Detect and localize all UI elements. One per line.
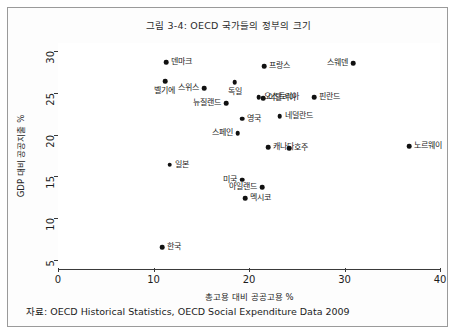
scatter-point	[287, 146, 292, 151]
source-note: 자료: OECD Historical Statistics, OECD Soc…	[26, 304, 350, 318]
scatter-point	[163, 79, 168, 84]
x-axis-tick-label: 10	[147, 275, 160, 285]
x-axis-tick	[58, 268, 59, 272]
figure-container: 그림 3-4: OECD 국가들의 정부의 크기 GDP 대비 공공지출 % 5…	[0, 0, 457, 336]
scatter-point	[202, 86, 207, 91]
y-axis-title: GDP 대비 공공지출 %	[14, 43, 27, 268]
scatter-point	[235, 131, 240, 136]
scatter-point-label: 독일	[228, 88, 242, 96]
y-axis-tick-label: 5	[46, 260, 56, 266]
scatter-point	[351, 61, 356, 66]
y-axis-tick-label: 10	[46, 218, 56, 231]
scatter-point-label: 호주	[294, 144, 308, 152]
scatter-point-label: 네덜란드	[285, 112, 313, 120]
scatter-point	[224, 101, 229, 106]
y-axis-title-text: GDP 대비 공공지출 %	[15, 114, 27, 196]
y-axis-tick-label: 15	[46, 176, 56, 189]
scatter-point-label: 한국	[167, 243, 181, 251]
scatter-point-label: 벨기에	[154, 87, 175, 95]
scatter-point-label: 영국	[247, 115, 261, 123]
x-axis-title: 총고용 대비 공공고용 %	[58, 290, 441, 302]
scatter-point	[407, 144, 412, 149]
scatter-point-label: 아일랜드	[229, 183, 257, 191]
scatter-point-label: 프랑스	[269, 62, 290, 70]
scatter-point-label: 덴마크	[171, 58, 192, 66]
scatter-point	[312, 95, 317, 100]
x-axis-tick	[345, 268, 346, 272]
y-axis-tick-label: 20	[46, 135, 56, 148]
scatter-point-label: 이탈리아	[268, 94, 296, 102]
scatter-point	[262, 64, 267, 69]
scatter-point	[261, 96, 266, 101]
scatter-point	[277, 114, 282, 119]
scatter-point	[243, 196, 248, 201]
scatter-point-label: 노르웨이	[414, 142, 442, 150]
scatter-point-label: 스웨덴	[327, 59, 348, 67]
scatter-point	[232, 80, 237, 85]
x-axis-tick	[154, 268, 155, 272]
scatter-point-label: 스위스	[178, 84, 199, 92]
scatter-point-label: 일본	[175, 161, 189, 169]
x-axis-tick-label: 40	[434, 275, 447, 285]
x-axis-tick-label: 30	[338, 275, 351, 285]
plot-background	[58, 43, 440, 268]
scatter-point	[160, 245, 165, 250]
scatter-point	[260, 185, 265, 190]
scatter-point	[167, 162, 172, 167]
x-axis-tick-label: 0	[55, 275, 61, 285]
plot-area: 51015202530 010203040 덴마크프랑스스웨덴벨기에스위스독일오…	[58, 43, 440, 268]
scatter-point	[240, 117, 245, 122]
x-axis-tick-label: 20	[243, 275, 256, 285]
y-axis-tick-label: 25	[46, 93, 56, 106]
page-title: 그림 3-4: OECD 국가들의 정부의 크기	[0, 18, 457, 32]
x-axis-tick	[249, 268, 250, 272]
scatter-point	[164, 60, 169, 65]
scatter-point-label: 뉴질랜드	[193, 99, 221, 107]
y-axis-tick-label: 30	[46, 51, 56, 64]
scatter-point-label: 스페인	[212, 129, 233, 137]
x-axis-tick	[440, 268, 441, 272]
scatter-point	[266, 145, 271, 150]
scatter-point-label: 멕시코	[250, 194, 271, 202]
scatter-point-label: 핀란드	[319, 93, 340, 101]
